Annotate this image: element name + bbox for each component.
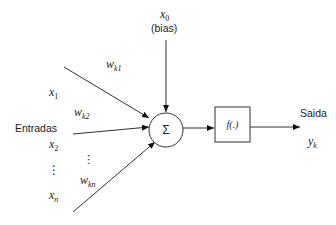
weight-k1: wk1 — [106, 57, 122, 73]
input-arrow-2 — [73, 127, 149, 134]
inputs-label: Entradas — [15, 122, 57, 134]
weight-k2: wk2 — [74, 105, 90, 121]
input-xn: xn — [48, 188, 58, 204]
output-yk: yk — [307, 134, 317, 150]
bias-symbol: x0 — [159, 7, 169, 23]
output-label: Saida — [300, 107, 327, 119]
input-x2: x2 — [48, 137, 58, 153]
weights-ellipsis: ⋮ — [83, 153, 94, 165]
activation-function-label: f(.) — [227, 119, 240, 131]
bias-label: (bias) — [151, 22, 177, 34]
neuron-diagram: x0 (bias) wk1 wk2 wkn ⋮ x1 Entradas x2 ⋮… — [0, 0, 336, 225]
inputs-ellipsis: ⋮ — [48, 163, 60, 177]
weight-kn: wkn — [80, 173, 96, 189]
input-x1: x1 — [48, 85, 58, 101]
summation-symbol: Σ — [162, 123, 169, 137]
